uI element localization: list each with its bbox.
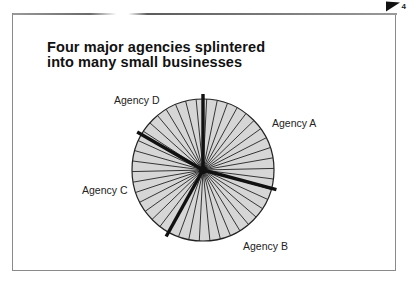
label-agency-d: Agency D <box>114 94 160 106</box>
pie-chart <box>0 0 409 286</box>
label-agency-a: Agency A <box>272 117 316 129</box>
pie-center-hub <box>199 166 207 174</box>
label-agency-b: Agency B <box>243 240 288 252</box>
label-agency-c: Agency C <box>82 184 128 196</box>
